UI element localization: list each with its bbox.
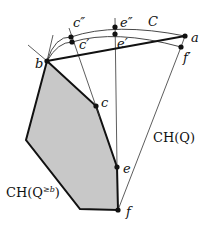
point-b [44, 58, 49, 63]
label-e: e [123, 162, 131, 175]
label-c-double-prime: c″ [73, 16, 85, 29]
label-a: a [191, 31, 199, 44]
point-f [115, 207, 120, 212]
label-ch-q: CH(Q) [153, 131, 195, 144]
point-c [93, 103, 98, 108]
label-b: b [35, 57, 43, 70]
label-f-prime: f′ [183, 51, 191, 64]
label-ch-q-geb: CH(Q≥b) [6, 186, 60, 199]
label-C: C [148, 15, 158, 28]
label-c-prime: c′ [79, 38, 89, 51]
point-e-double-prime [112, 24, 117, 29]
point-e [114, 164, 119, 169]
label-e-prime: e′ [117, 37, 128, 50]
point-a [182, 33, 187, 38]
point-c-double-prime [68, 34, 73, 39]
diagram-canvas: a b c c″ c′ e″ e′ C f′ e f CH(Q) CH(Q≥b) [0, 0, 210, 227]
label-e-double-prime: e″ [120, 16, 133, 29]
point-c-prime [69, 39, 74, 44]
label-f: f [126, 205, 131, 218]
label-c: c [101, 96, 108, 109]
chord-b-a [47, 36, 185, 61]
line-f-fp [118, 47, 181, 210]
point-f-prime [178, 44, 183, 49]
